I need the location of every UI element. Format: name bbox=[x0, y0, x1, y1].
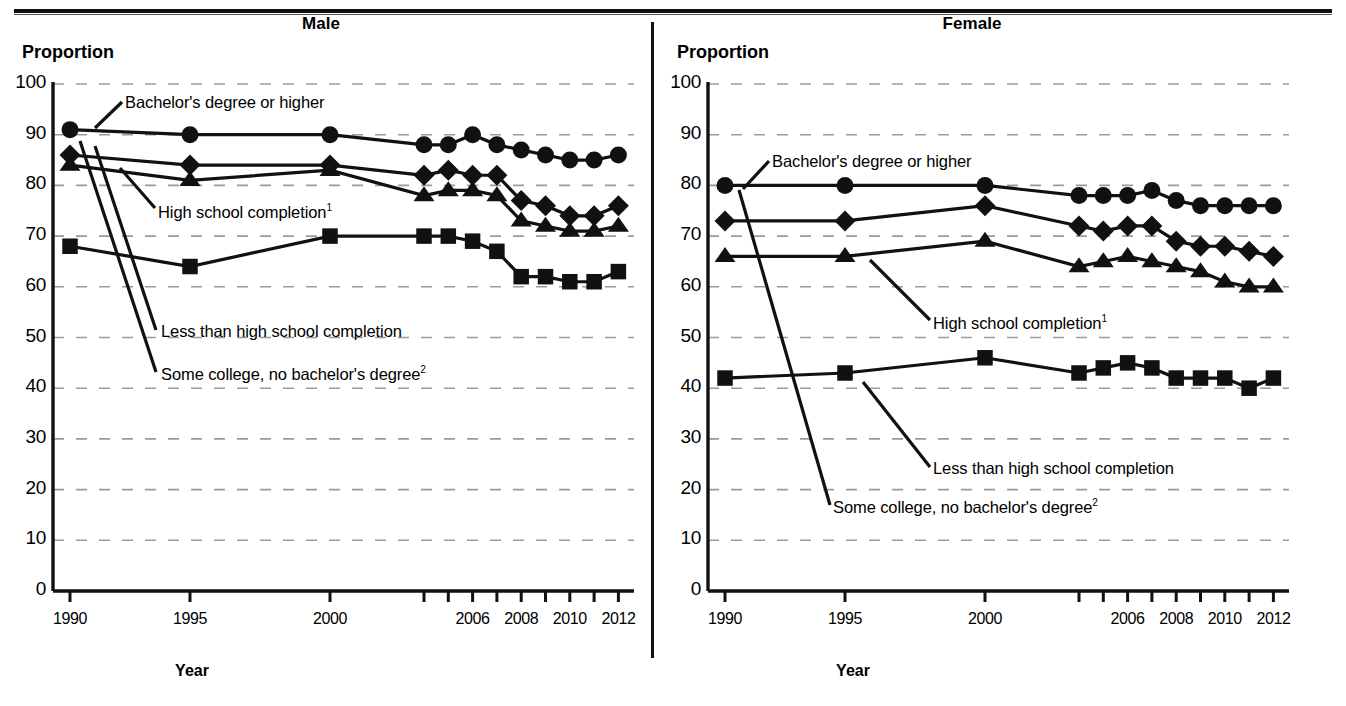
data-point-square bbox=[562, 274, 578, 290]
data-point-square bbox=[1120, 355, 1136, 371]
data-point-square bbox=[1217, 370, 1233, 386]
x-tick-label: 2000 bbox=[955, 610, 1015, 628]
data-point-circle bbox=[1119, 187, 1136, 204]
data-point-diamond bbox=[608, 195, 629, 216]
y-tick-label: 10 bbox=[655, 527, 701, 549]
data-point-triangle bbox=[1117, 247, 1138, 262]
data-point-diamond bbox=[1214, 236, 1235, 257]
data-point-circle bbox=[837, 177, 854, 194]
data-point-square bbox=[441, 228, 457, 244]
data-point-square bbox=[182, 259, 198, 275]
data-point-square bbox=[1266, 370, 1282, 386]
y-tick-label: 0 bbox=[655, 578, 701, 600]
y-tick-label: 70 bbox=[0, 223, 46, 245]
y-tick-label: 50 bbox=[655, 325, 701, 347]
y-tick-label: 20 bbox=[0, 477, 46, 499]
data-point-diamond bbox=[438, 160, 459, 181]
data-point-triangle bbox=[608, 217, 629, 232]
y-tick-label: 0 bbox=[0, 578, 46, 600]
data-point-diamond bbox=[1141, 215, 1162, 236]
data-point-square bbox=[977, 350, 993, 366]
x-tick-label: 1990 bbox=[695, 610, 755, 628]
plot-area-male bbox=[0, 0, 652, 706]
y-tick-label: 40 bbox=[0, 375, 46, 397]
data-point-triangle bbox=[715, 247, 736, 262]
data-point-triangle bbox=[1263, 278, 1284, 293]
y-tick-label: 60 bbox=[0, 274, 46, 296]
data-point-circle bbox=[416, 136, 433, 153]
leader-somecollege bbox=[739, 190, 830, 505]
data-point-diamond bbox=[1166, 231, 1187, 252]
data-point-circle bbox=[513, 141, 530, 158]
data-point-diamond bbox=[1190, 236, 1211, 257]
series-line bbox=[725, 206, 1273, 257]
data-point-circle bbox=[1095, 187, 1112, 204]
data-point-square bbox=[1071, 365, 1087, 381]
data-point-circle bbox=[1192, 197, 1209, 214]
y-tick-label: 80 bbox=[0, 172, 46, 194]
leader-bachelor bbox=[95, 102, 122, 128]
data-point-circle bbox=[586, 152, 603, 169]
data-point-circle bbox=[488, 136, 505, 153]
data-point-triangle bbox=[462, 181, 483, 196]
leader-lessthan bbox=[863, 382, 930, 467]
annotation-highschool-female: High school completion1 bbox=[933, 313, 1107, 333]
data-point-diamond bbox=[414, 165, 435, 186]
annotation-lessthan-male: Less than high school completion bbox=[161, 322, 402, 341]
data-point-square bbox=[837, 365, 853, 381]
x-tick-label: 1995 bbox=[815, 610, 875, 628]
annotation-somecollege-female: Some college, no bachelor's degree2 bbox=[833, 497, 1098, 517]
y-tick-label: 30 bbox=[0, 426, 46, 448]
annotation-bachelor-male: Bachelor's degree or higher bbox=[125, 93, 325, 112]
data-point-diamond bbox=[1093, 221, 1114, 242]
y-tick-label: 40 bbox=[655, 375, 701, 397]
data-point-circle bbox=[322, 126, 339, 143]
data-point-diamond bbox=[975, 195, 996, 216]
data-point-circle bbox=[1071, 187, 1088, 204]
figure-root: Male Proportion Year Bachelor's degree o… bbox=[0, 0, 1346, 706]
data-point-square bbox=[513, 269, 529, 285]
data-point-square bbox=[465, 233, 481, 249]
y-tick-label: 100 bbox=[0, 71, 46, 93]
data-point-square bbox=[611, 264, 627, 280]
y-tick-label: 30 bbox=[655, 426, 701, 448]
annotation-somecollege-male: Some college, no bachelor's degree2 bbox=[161, 364, 426, 384]
data-point-square bbox=[717, 370, 733, 386]
panel-female: Female Proportion Year Bachelor's degree… bbox=[655, 0, 1307, 706]
data-point-square bbox=[416, 228, 432, 244]
x-tick-label: 1990 bbox=[40, 610, 100, 628]
y-tick-label: 80 bbox=[655, 172, 701, 194]
data-point-diamond bbox=[1069, 215, 1090, 236]
series-line bbox=[725, 358, 1273, 388]
series-line bbox=[70, 165, 618, 231]
y-tick-label: 60 bbox=[655, 274, 701, 296]
series-line bbox=[725, 241, 1273, 287]
panel-male: Male Proportion Year Bachelor's degree o… bbox=[0, 0, 652, 706]
data-point-square bbox=[1193, 370, 1209, 386]
data-point-triangle bbox=[438, 181, 459, 196]
data-point-square bbox=[62, 238, 78, 254]
annotation-bachelor-female: Bachelor's degree or higher bbox=[772, 152, 972, 171]
y-tick-label: 90 bbox=[655, 122, 701, 144]
series-line bbox=[70, 236, 618, 282]
x-tick-label: 2012 bbox=[588, 610, 648, 628]
annotation-highschool-male: High school completion1 bbox=[158, 202, 332, 222]
data-point-square bbox=[322, 228, 338, 244]
y-tick-label: 70 bbox=[655, 223, 701, 245]
data-point-circle bbox=[464, 126, 481, 143]
data-point-circle bbox=[561, 152, 578, 169]
data-point-diamond bbox=[715, 210, 736, 231]
data-point-diamond bbox=[835, 210, 856, 231]
data-point-square bbox=[586, 274, 602, 290]
data-point-circle bbox=[610, 146, 627, 163]
data-point-diamond bbox=[1263, 246, 1284, 267]
data-point-circle bbox=[537, 146, 554, 163]
data-point-diamond bbox=[1117, 215, 1138, 236]
y-tick-label: 10 bbox=[0, 527, 46, 549]
series-square bbox=[62, 228, 626, 289]
series-line bbox=[725, 185, 1273, 205]
data-point-square bbox=[1241, 380, 1257, 396]
data-point-square bbox=[1096, 360, 1112, 376]
leader-highschool bbox=[870, 260, 930, 320]
data-point-circle bbox=[977, 177, 994, 194]
